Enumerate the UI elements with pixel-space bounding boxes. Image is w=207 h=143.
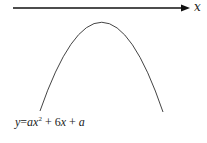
parabola-curve xyxy=(40,22,163,112)
eq-plus2: + xyxy=(69,115,76,129)
eq-term2-var: x xyxy=(61,115,66,129)
x-axis-arrowhead-icon xyxy=(181,5,190,12)
eq-term3: a xyxy=(79,115,85,129)
parabola-equation: y=ax2 + 6x + a xyxy=(15,115,85,130)
eq-plus1: + xyxy=(45,115,52,129)
x-axis-label: x xyxy=(194,0,201,14)
eq-term1-exp: 2 xyxy=(38,115,42,123)
